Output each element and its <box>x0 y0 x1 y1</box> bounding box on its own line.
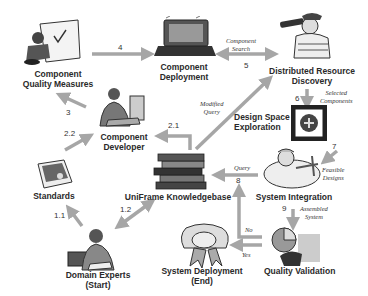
edge-yes-caption: Yes <box>242 251 250 259</box>
node-standards: Standards <box>28 191 80 201</box>
label-line: Deployment <box>148 72 220 82</box>
domain-experts-icon <box>64 226 126 272</box>
node-component-deployment: Component Deployment <box>148 62 220 82</box>
design-space-icon <box>290 104 328 142</box>
arrow-2-1-up <box>161 136 190 150</box>
edge-8-number: 8 <box>236 176 240 185</box>
edge-2-1-number: 2.1 <box>168 121 179 130</box>
caption-line: Feasible <box>322 166 344 174</box>
edge-1-1-number: 1.1 <box>54 211 65 220</box>
edge-5-number: 5 <box>244 61 248 70</box>
caption-line: Modified <box>200 100 223 108</box>
knowledgebase-icon <box>150 150 212 192</box>
caption-line: Yes <box>242 251 250 259</box>
edge-6-number: 6 <box>295 94 299 103</box>
label-line: Component <box>148 62 220 72</box>
label-line: (End) <box>160 276 244 286</box>
edge-4-number: 4 <box>118 43 122 52</box>
caption-line: System <box>300 213 328 221</box>
caption-line: Designs <box>322 174 344 182</box>
standards-icon <box>34 158 74 190</box>
label-line: Discovery <box>262 76 362 86</box>
node-system-deployment: System Deployment (End) <box>160 266 244 286</box>
node-system-integration: System Integration <box>252 192 336 202</box>
arrow-3 <box>62 96 86 107</box>
label-line: Distributed Resource <box>262 66 362 76</box>
caption-line: Component <box>226 37 256 45</box>
label-line: Component <box>18 69 98 79</box>
node-component-quality-measures: Component Quality Measures <box>18 69 98 89</box>
arrow-1-1 <box>70 210 82 226</box>
developer-icon <box>94 86 146 130</box>
node-distributed-resource-discovery: Distributed Resource Discovery <box>262 66 362 86</box>
caption-line: Selected <box>320 89 353 97</box>
edge-modified-query-caption: Modified Query <box>200 100 223 116</box>
edge-3-number: 3 <box>66 108 70 117</box>
label-line: Standards <box>28 191 80 201</box>
caption-line: Search <box>226 45 256 53</box>
caption-line: Query <box>200 108 223 116</box>
edge-6-caption: Selected Components <box>320 89 353 105</box>
caption-line: Query <box>234 164 250 172</box>
label-line: System Integration <box>252 192 336 202</box>
edge-8-caption: Query <box>234 164 250 172</box>
integration-icon <box>262 146 328 190</box>
arrow-2-2 <box>65 137 88 150</box>
edge-2-2-number: 2.2 <box>64 129 75 138</box>
node-domain-experts: Domain Experts (Start) <box>58 270 138 290</box>
label-line: Domain Experts <box>58 270 138 280</box>
label-line: System Deployment <box>160 266 244 276</box>
label-line: UniFrame Knowledgebase <box>124 192 232 202</box>
edge-9-number: 9 <box>282 204 286 213</box>
label-line: Design Space <box>234 112 292 122</box>
quality-validation-icon <box>262 226 322 268</box>
discovery-icon <box>276 10 336 60</box>
label-line: Quality Validation <box>264 266 334 276</box>
node-uniframe-knowledgebase: UniFrame Knowledgebase <box>124 192 232 202</box>
edge-7-caption: Feasible Designs <box>322 166 344 182</box>
label-line: Exploration <box>234 122 292 132</box>
caption-line: Assembled <box>300 205 328 213</box>
label-line: (Start) <box>58 280 138 290</box>
caption-line: Components <box>320 97 353 105</box>
edge-9-caption: Assembled System <box>300 205 328 221</box>
node-design-space-exploration: Design Space Exploration <box>234 112 292 132</box>
label-line: Component <box>94 132 154 142</box>
node-component-developer: Component Developer <box>94 132 154 152</box>
label-line: Quality Measures <box>18 79 98 89</box>
edge-5-caption: Component Search <box>226 37 256 53</box>
node-quality-validation: Quality Validation <box>264 266 334 276</box>
system-deployment-icon <box>176 222 234 268</box>
edge-no-caption: No <box>245 226 253 234</box>
caption-line: No <box>245 226 253 234</box>
quality-measures-icon <box>20 18 82 66</box>
label-line: Developer <box>94 142 154 152</box>
edge-7-number: 7 <box>332 142 336 151</box>
deployment-icon <box>152 16 218 60</box>
edge-1-2-number: 1.2 <box>120 205 131 214</box>
